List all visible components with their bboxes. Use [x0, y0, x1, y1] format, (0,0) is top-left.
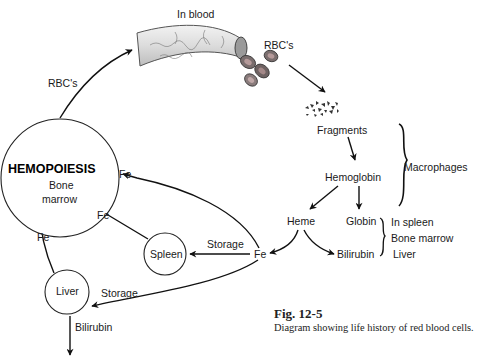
figure-number: Fig. 12-5: [274, 306, 481, 321]
arrow-heme-to-bilirubin: [304, 230, 334, 254]
label-fragments: Fragments: [317, 124, 367, 136]
figure-description: Diagram showing life history of red bloo…: [274, 321, 481, 334]
arrow-rbcs-to-fragments: [289, 65, 325, 92]
locations-brace: [380, 218, 385, 256]
label-macrophages: Macrophages: [404, 161, 468, 173]
label-marrow: marrow: [42, 193, 77, 205]
label-rbcs-top: RBC's: [264, 39, 293, 51]
blood-vessel-illustration: [137, 25, 247, 66]
label-rbcs-left: RBC's: [48, 77, 77, 89]
label-globin: Globin: [346, 215, 377, 227]
label-fe-top: Fe: [119, 168, 131, 180]
label-in-blood: In blood: [177, 8, 215, 20]
label-fe-center: Fe: [254, 248, 266, 260]
label-bilirubin-right: Bilirubin: [337, 248, 375, 260]
label-hemoglobin: Hemoglobin: [325, 171, 381, 183]
label-bone: Bone: [49, 179, 74, 191]
label-storage-spleen: Storage: [207, 238, 244, 250]
arrow-hemoglobin-to-heme: [310, 186, 338, 209]
rbc-life-history-diagram: In blood RBC's RBC's Fragments Hemoglobi…: [0, 0, 481, 358]
label-heme: Heme: [287, 215, 315, 227]
label-in-spleen: In spleen: [391, 216, 434, 228]
label-liver: Liver: [56, 285, 79, 297]
figure-caption: Fig. 12-5 Diagram showing life history o…: [274, 306, 481, 334]
label-storage-liver: Storage: [101, 287, 138, 299]
arrow-heme-to-fe: [270, 230, 298, 253]
label-hemopoiesis: HEMOPOIESIS: [8, 162, 96, 176]
label-fe-left: Fe: [37, 231, 49, 243]
label-bilirubin-out: Bilirubin: [75, 321, 113, 333]
label-bone-marrow-site: Bone marrow: [391, 232, 454, 244]
rbc-fragments-illustration: [305, 101, 339, 117]
label-fe-mid: Fe: [97, 209, 109, 221]
label-liver-site: Liver: [393, 248, 416, 260]
arrow-fragments-to-hemoglobin: [348, 137, 355, 160]
label-spleen: Spleen: [150, 248, 183, 260]
